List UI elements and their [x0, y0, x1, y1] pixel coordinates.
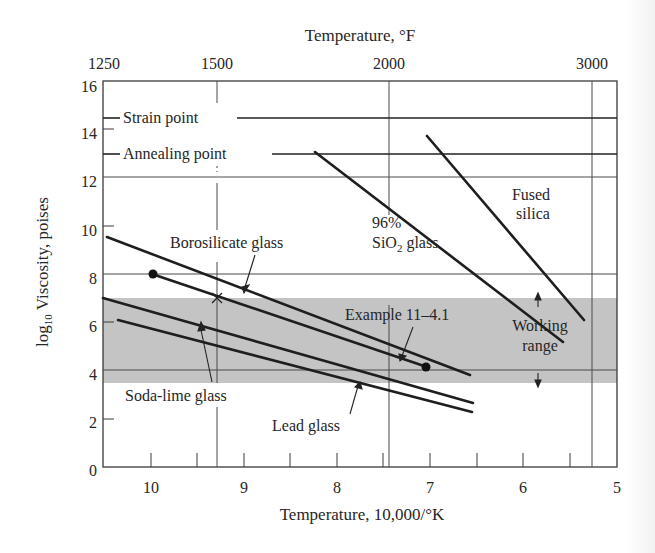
label-fused: Fused: [512, 186, 550, 203]
top-axis-title: Temperature, °F: [305, 26, 415, 45]
svg-text:16: 16: [81, 78, 97, 95]
top-tick-2000: 2000: [373, 55, 405, 72]
svg-text:4: 4: [89, 366, 97, 383]
svg-text:12: 12: [81, 173, 97, 190]
top-tick-3000: 3000: [576, 55, 608, 72]
svg-text:log10 Viscosity, poises: log10 Viscosity, poises: [33, 197, 54, 347]
y-tick-labels: 16 14 12 10 8 6 4 2 0: [81, 78, 97, 479]
label-example: Example 11–4.1: [345, 306, 449, 324]
page-edge-shadow: [625, 0, 655, 553]
label-sio2-glass: SiO2 glass: [372, 234, 438, 254]
label-96-percent: 96%: [372, 214, 401, 231]
label-lead-glass: Lead glass: [272, 417, 340, 435]
label-silica: silica: [516, 205, 550, 222]
top-tick-1250: 1250: [88, 55, 120, 72]
svg-text:9: 9: [240, 479, 248, 496]
x-tick-labels: 10 9 8 7 6 5: [143, 479, 621, 496]
label-soda-lime: Soda-lime glass: [125, 387, 227, 405]
svg-text:2: 2: [89, 414, 97, 431]
svg-text:10: 10: [143, 479, 159, 496]
svg-text:8: 8: [333, 479, 341, 496]
line-fused-silica: [427, 136, 584, 320]
svg-text:0: 0: [89, 462, 97, 479]
label-annealing-point: Annealing point: [123, 145, 227, 163]
x-axis-ticks: [151, 453, 570, 467]
x-axis-label: Temperature, 10,000/°K: [280, 505, 445, 524]
viscosity-chart: Temperature, °F 1250 1500 2000 3000 16 1…: [0, 0, 655, 553]
y-axis-label: log10 Viscosity, poises: [33, 197, 54, 347]
label-range: range: [522, 337, 558, 355]
example-start-dot: [149, 270, 158, 279]
svg-text:7: 7: [426, 479, 434, 496]
svg-text:5: 5: [613, 479, 621, 496]
svg-text:14: 14: [81, 125, 97, 142]
top-tick-1500: 1500: [201, 55, 233, 72]
example-end-dot: [422, 363, 431, 372]
label-borosilicate: Borosilicate glass: [170, 234, 283, 252]
svg-text:8: 8: [89, 270, 97, 287]
label-strain-point: Strain point: [123, 109, 199, 127]
svg-text:6: 6: [519, 479, 527, 496]
svg-text:6: 6: [89, 318, 97, 335]
label-working: Working: [512, 317, 568, 335]
svg-text:10: 10: [81, 222, 97, 239]
